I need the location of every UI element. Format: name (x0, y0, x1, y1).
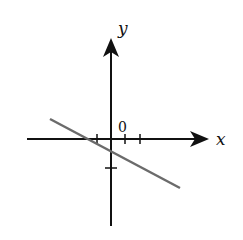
x-axis-label: x (216, 129, 226, 149)
origin-label: 0 (118, 119, 127, 135)
data-line (50, 119, 180, 188)
coordinate-plane: y x 0 (0, 0, 243, 240)
y-axis-label: y (117, 18, 128, 38)
